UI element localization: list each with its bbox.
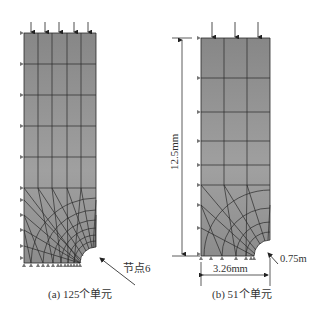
load-arrows-b (212, 22, 258, 37)
width-label: 3.26mm (213, 263, 248, 274)
radius-label: 0.75m (280, 253, 307, 264)
panel-b-mesh (197, 22, 270, 260)
caption-b: (b) 51个单元 (212, 288, 272, 301)
fem-mesh-figure: 节点6 (a) 125个单元 (0, 0, 322, 319)
height-label: 12.5mm (168, 133, 180, 170)
left-supports (20, 31, 24, 260)
bottom-supports-b (199, 256, 256, 260)
left-supports-b (197, 36, 201, 256)
bottom-supports (22, 263, 82, 267)
node-6-label: 节点6 (123, 262, 151, 274)
load-arrows (31, 22, 88, 32)
radius-pointer (268, 253, 278, 264)
panel-a-mesh (20, 22, 135, 285)
caption-a: (a) 125个单元 (48, 288, 112, 301)
